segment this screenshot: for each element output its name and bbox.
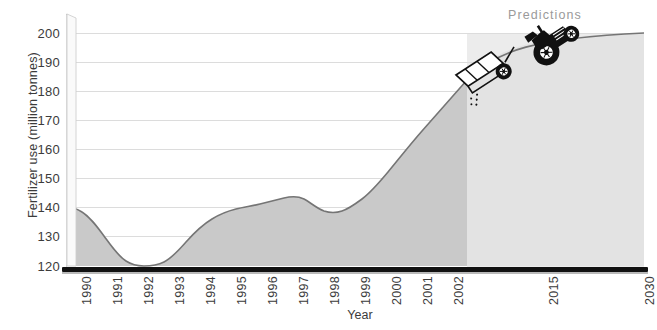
x-tick-1998: 1998 [328,276,342,305]
x-tick-1991: 1991 [111,276,125,305]
x-axis-title: Year [300,308,420,322]
x-tick-1997: 1997 [297,276,311,305]
x-tick-2002: 2002 [452,276,466,305]
x-tick-2030: 2030 [643,276,657,305]
x-tick-1993: 1993 [173,276,187,305]
x-tick-2001: 2001 [421,276,435,305]
x-tick-1994: 1994 [204,276,218,305]
x-tick-2000: 2000 [390,276,404,305]
x-tick-2015: 2015 [547,276,561,305]
x-tick-1995: 1995 [235,276,249,305]
x-tick-1996: 1996 [266,276,280,305]
x-tick-1990: 1990 [80,276,94,305]
x-tick-1999: 1999 [359,276,373,305]
x-tick-1992: 1992 [142,276,156,305]
